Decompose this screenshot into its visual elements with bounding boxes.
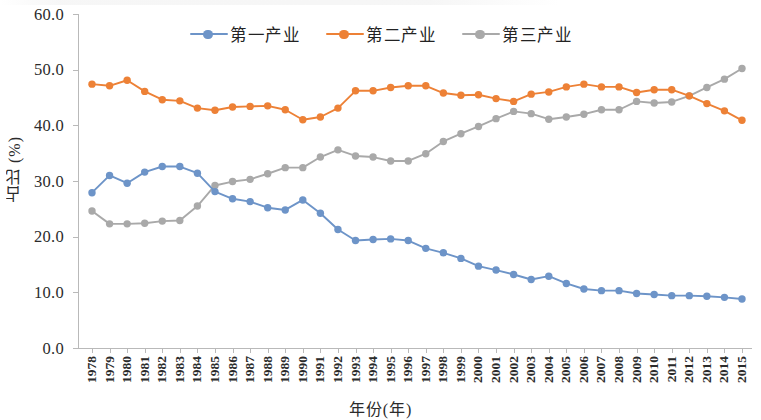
- data-point[interactable]: [650, 291, 657, 298]
- data-point[interactable]: [563, 83, 570, 90]
- data-point[interactable]: [721, 294, 728, 301]
- data-point[interactable]: [123, 220, 130, 227]
- data-point[interactable]: [299, 116, 306, 123]
- data-point[interactable]: [387, 84, 394, 91]
- data-point[interactable]: [352, 87, 359, 94]
- data-point[interactable]: [422, 82, 429, 89]
- legend-item-1[interactable]: 第一产业: [190, 22, 300, 46]
- data-point[interactable]: [88, 80, 95, 87]
- data-point[interactable]: [106, 172, 113, 179]
- data-point[interactable]: [650, 86, 657, 93]
- data-point[interactable]: [580, 285, 587, 292]
- data-point[interactable]: [405, 82, 412, 89]
- data-point[interactable]: [598, 106, 605, 113]
- data-point[interactable]: [440, 89, 447, 96]
- data-point[interactable]: [422, 245, 429, 252]
- data-point[interactable]: [387, 157, 394, 164]
- data-point[interactable]: [264, 102, 271, 109]
- data-point[interactable]: [211, 107, 218, 114]
- data-point[interactable]: [176, 163, 183, 170]
- data-point[interactable]: [88, 189, 95, 196]
- data-point[interactable]: [738, 65, 745, 72]
- data-point[interactable]: [703, 84, 710, 91]
- data-point[interactable]: [405, 157, 412, 164]
- data-point[interactable]: [545, 88, 552, 95]
- data-point[interactable]: [686, 292, 693, 299]
- data-point[interactable]: [246, 176, 253, 183]
- data-point[interactable]: [334, 226, 341, 233]
- data-point[interactable]: [264, 170, 271, 177]
- data-point[interactable]: [545, 116, 552, 123]
- data-point[interactable]: [282, 206, 289, 213]
- data-point[interactable]: [580, 80, 587, 87]
- data-point[interactable]: [510, 108, 517, 115]
- data-point[interactable]: [563, 113, 570, 120]
- data-point[interactable]: [422, 150, 429, 157]
- data-point[interactable]: [527, 90, 534, 97]
- data-point[interactable]: [229, 103, 236, 110]
- data-point[interactable]: [580, 111, 587, 118]
- data-point[interactable]: [650, 99, 657, 106]
- data-point[interactable]: [194, 170, 201, 177]
- data-point[interactable]: [721, 75, 728, 82]
- data-point[interactable]: [457, 92, 464, 99]
- data-point[interactable]: [282, 164, 289, 171]
- data-point[interactable]: [527, 276, 534, 283]
- data-point[interactable]: [633, 98, 640, 105]
- data-point[interactable]: [475, 123, 482, 130]
- data-point[interactable]: [633, 89, 640, 96]
- data-point[interactable]: [246, 103, 253, 110]
- data-point[interactable]: [440, 138, 447, 145]
- data-point[interactable]: [598, 83, 605, 90]
- data-point[interactable]: [440, 249, 447, 256]
- data-point[interactable]: [282, 106, 289, 113]
- data-point[interactable]: [738, 117, 745, 124]
- data-point[interactable]: [106, 82, 113, 89]
- data-point[interactable]: [299, 164, 306, 171]
- data-point[interactable]: [334, 146, 341, 153]
- data-point[interactable]: [141, 168, 148, 175]
- data-point[interactable]: [141, 220, 148, 227]
- data-point[interactable]: [194, 104, 201, 111]
- legend-item-2[interactable]: 第二产业: [326, 22, 436, 46]
- data-point[interactable]: [106, 220, 113, 227]
- data-point[interactable]: [159, 96, 166, 103]
- data-point[interactable]: [88, 207, 95, 214]
- data-point[interactable]: [738, 295, 745, 302]
- data-point[interactable]: [264, 204, 271, 211]
- data-point[interactable]: [475, 262, 482, 269]
- data-point[interactable]: [510, 98, 517, 105]
- data-point[interactable]: [703, 293, 710, 300]
- data-point[interactable]: [668, 98, 675, 105]
- data-point[interactable]: [123, 180, 130, 187]
- data-point[interactable]: [299, 196, 306, 203]
- data-point[interactable]: [334, 104, 341, 111]
- data-point[interactable]: [492, 95, 499, 102]
- data-point[interactable]: [369, 236, 376, 243]
- data-point[interactable]: [317, 210, 324, 217]
- data-point[interactable]: [615, 83, 622, 90]
- data-point[interactable]: [615, 287, 622, 294]
- data-point[interactable]: [211, 188, 218, 195]
- data-point[interactable]: [159, 217, 166, 224]
- data-point[interactable]: [545, 272, 552, 279]
- data-point[interactable]: [194, 202, 201, 209]
- data-point[interactable]: [598, 287, 605, 294]
- data-point[interactable]: [492, 266, 499, 273]
- data-point[interactable]: [703, 100, 710, 107]
- data-point[interactable]: [457, 130, 464, 137]
- data-point[interactable]: [369, 153, 376, 160]
- data-point[interactable]: [668, 292, 675, 299]
- data-point[interactable]: [457, 255, 464, 262]
- data-point[interactable]: [229, 178, 236, 185]
- data-point[interactable]: [563, 280, 570, 287]
- data-point[interactable]: [317, 153, 324, 160]
- data-point[interactable]: [352, 237, 359, 244]
- data-point[interactable]: [246, 198, 253, 205]
- data-point[interactable]: [721, 107, 728, 114]
- data-point[interactable]: [668, 86, 675, 93]
- data-point[interactable]: [123, 77, 130, 84]
- data-point[interactable]: [317, 113, 324, 120]
- data-point[interactable]: [159, 163, 166, 170]
- data-point[interactable]: [352, 152, 359, 159]
